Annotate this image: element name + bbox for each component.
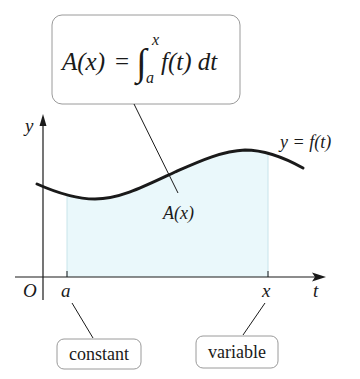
origin-label: O [23, 280, 37, 301]
constant-callout-text: constant [69, 344, 129, 364]
area-label: A(x) [162, 203, 194, 224]
y-axis-label: y [23, 115, 34, 136]
t-axis-label: t [313, 280, 319, 301]
formula-lower-limit: a [146, 69, 154, 86]
x-tick-label: x [261, 280, 271, 301]
a-label: a [61, 280, 71, 301]
formula-upper-limit: x [151, 31, 159, 48]
formula-equals: = [115, 48, 129, 75]
formula-lhs: A(x) [60, 48, 105, 76]
variable-leader-line [243, 303, 265, 335]
y-axis-arrow-icon [40, 114, 47, 126]
formula-integrand: f(t) dt [161, 48, 218, 76]
diagram: A(x) = ∫ x a f(t) dt y y = f(t) A(x) O a… [0, 0, 360, 379]
constant-leader-line [72, 303, 93, 338]
curve-label: y = f(t) [278, 132, 331, 153]
variable-callout-text: variable [208, 342, 266, 362]
